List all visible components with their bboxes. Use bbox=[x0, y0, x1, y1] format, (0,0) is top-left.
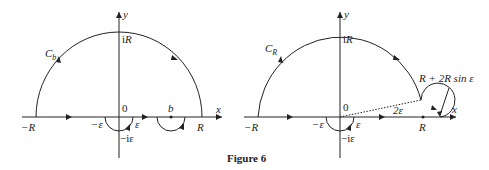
figure-6: Cb y x iR 0 b −R R −ε ε −iε bbox=[0, 0, 489, 170]
svg-text:x: x bbox=[451, 103, 457, 115]
svg-text:−iε: −iε bbox=[120, 132, 134, 144]
svg-text:Cb: Cb bbox=[45, 47, 56, 62]
svg-text:−ε: −ε bbox=[91, 118, 103, 130]
annotation-pointer bbox=[440, 88, 449, 115]
svg-text:−iε: −iε bbox=[341, 132, 355, 144]
svg-text:−R: −R bbox=[21, 121, 35, 133]
svg-text:ε: ε bbox=[135, 118, 140, 130]
svg-text:R: R bbox=[418, 121, 426, 133]
figure-caption: Figure 6 bbox=[227, 152, 267, 164]
svg-text:0: 0 bbox=[122, 102, 128, 114]
angle-ray bbox=[340, 100, 421, 117]
svg-text:0: 0 bbox=[343, 101, 349, 113]
svg-text:y: y bbox=[122, 8, 128, 20]
svg-text:iR: iR bbox=[343, 33, 353, 45]
svg-text:CR: CR bbox=[265, 42, 277, 57]
left-labels: Cb y x iR 0 b −R R −ε ε −iε bbox=[21, 8, 221, 144]
svg-text:y: y bbox=[343, 8, 349, 20]
svg-text:−ε: −ε bbox=[312, 118, 324, 130]
svg-text:x: x bbox=[215, 103, 221, 115]
svg-text:R + 2R sin ε: R + 2R sin ε bbox=[418, 72, 474, 84]
svg-text:−R: −R bbox=[244, 121, 258, 133]
svg-text:b: b bbox=[168, 102, 174, 114]
svg-text:iR: iR bbox=[122, 33, 132, 45]
svg-text:R: R bbox=[196, 121, 204, 133]
right-labels: CR y x iR 0 2ε R −R −ε ε −iε R + 2R sin … bbox=[244, 8, 474, 144]
svg-text:ε: ε bbox=[356, 118, 361, 130]
svg-text:2ε: 2ε bbox=[393, 104, 404, 116]
b-indent bbox=[157, 117, 185, 131]
